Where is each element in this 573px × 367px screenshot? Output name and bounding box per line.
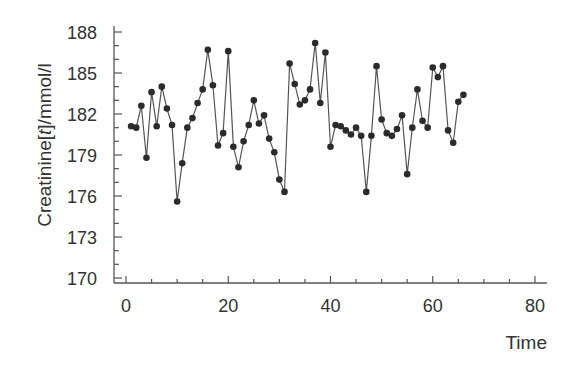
data-point — [240, 138, 247, 145]
data-point — [281, 189, 288, 196]
data-point — [194, 100, 201, 107]
data-point — [373, 63, 380, 70]
data-point — [261, 112, 268, 119]
data-point — [153, 123, 160, 130]
data-point — [404, 171, 411, 178]
data-point — [245, 122, 252, 129]
y-tick-label: 173 — [67, 228, 97, 248]
data-point — [399, 112, 406, 119]
data-point — [445, 127, 452, 134]
data-point — [424, 124, 431, 131]
data-point — [266, 135, 273, 142]
data-point — [409, 124, 416, 131]
data-point — [394, 126, 401, 133]
line-chart: 170173176179182185188 020406080 Time Cre… — [0, 0, 573, 367]
data-point — [276, 176, 283, 183]
y-axis: 170173176179182185188 — [67, 23, 122, 289]
data-point — [358, 133, 365, 140]
x-axis-label: Time — [505, 332, 547, 353]
data-point — [414, 86, 421, 93]
data-point — [363, 189, 370, 196]
x-tick-label: 20 — [218, 296, 238, 316]
data-point — [389, 133, 396, 140]
data-point — [455, 98, 462, 105]
data-point — [133, 124, 140, 131]
y-tick-label: 176 — [67, 187, 97, 207]
data-point — [429, 64, 436, 71]
data-point — [327, 144, 334, 151]
data-point — [164, 105, 171, 112]
data-point — [353, 124, 360, 131]
data-point — [317, 100, 324, 107]
data-point — [189, 115, 196, 122]
data-point — [297, 101, 304, 108]
data-point — [343, 127, 350, 134]
data-point — [435, 74, 442, 81]
data-point — [419, 118, 426, 125]
data-point — [302, 97, 309, 104]
data-point — [286, 60, 293, 67]
data-point — [138, 103, 145, 110]
data-point — [322, 49, 329, 56]
y-axis-label: Creatinine[t]/mmol/l — [34, 63, 55, 227]
data-point — [312, 40, 319, 47]
data-point — [210, 82, 217, 89]
x-tick-label: 0 — [121, 296, 131, 316]
data-point — [199, 86, 206, 93]
data-point — [348, 131, 355, 138]
data-point — [235, 164, 242, 171]
data-point — [169, 122, 176, 129]
y-tick-label: 185 — [67, 64, 97, 84]
data-point — [291, 81, 298, 88]
data-point — [368, 133, 375, 140]
data-point — [143, 154, 150, 161]
data-point — [378, 116, 385, 123]
data-point — [225, 48, 232, 55]
data-point — [184, 124, 191, 131]
data-point — [230, 144, 237, 151]
data-point — [251, 97, 258, 104]
x-tick-label: 80 — [525, 296, 545, 316]
series-line — [131, 43, 463, 202]
data-point — [174, 198, 181, 205]
data-point — [307, 86, 314, 93]
data-point — [450, 139, 457, 146]
data-point — [220, 130, 227, 137]
data-point — [148, 89, 155, 96]
data-point — [337, 123, 344, 130]
x-tick-label: 40 — [320, 296, 340, 316]
x-tick-label: 60 — [423, 296, 443, 316]
data-point — [215, 142, 222, 149]
y-tick-label: 188 — [67, 23, 97, 43]
data-point — [205, 46, 212, 53]
y-tick-label: 170 — [67, 269, 97, 289]
data-point — [460, 92, 467, 99]
y-tick-label: 179 — [67, 146, 97, 166]
data-point — [256, 120, 263, 127]
data-point — [271, 149, 278, 156]
plot-area — [128, 40, 467, 205]
data-point — [179, 160, 186, 167]
y-tick-label: 182 — [67, 105, 97, 125]
data-point — [440, 63, 447, 70]
x-axis: 020406080 — [114, 276, 547, 316]
data-point — [158, 83, 165, 90]
